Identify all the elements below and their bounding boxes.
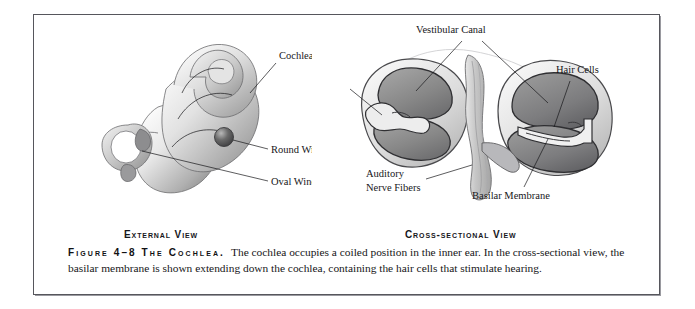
external-view-illustration: Cochlea Round Window Oval Window	[62, 15, 312, 215]
figure-caption: Figure 4–8 The Cochlea.The cochlea occup…	[68, 245, 634, 275]
label-auditory-nerve-line2: Nerve Fibers	[366, 182, 421, 193]
label-auditory-nerve-line1: Auditory	[366, 168, 405, 179]
cross-sectional-illustration: Vestibular Canal Hair Cells Cochlear Can…	[322, 15, 652, 215]
figure-caption-prefix: Figure 4–8 The Cochlea.	[68, 247, 225, 258]
cross-sectional-view-caption: Cross-sectional View	[405, 229, 517, 240]
external-view-caption: External View	[124, 229, 198, 240]
cochlea-external-shape	[102, 44, 259, 192]
illustration-area: Cochlea Round Window Oval Window	[34, 15, 661, 215]
figure-frame: Cochlea Round Window Oval Window	[33, 14, 660, 295]
label-oval-window: Oval Window	[271, 176, 312, 187]
auditory-nerve-leader-line	[426, 165, 472, 179]
label-hair-cells: Hair Cells	[556, 64, 599, 75]
label-cochlea: Cochlea	[279, 50, 312, 61]
label-cochlea-group: Cochlea	[250, 50, 312, 93]
label-round-window: Round Window	[271, 144, 312, 155]
label-basilar-membrane: Basilar Membrane	[472, 190, 550, 201]
label-vestibular-canal: Vestibular Canal	[416, 24, 486, 35]
label-auditory-nerve-group: Auditory Nerve Fibers	[366, 165, 472, 193]
